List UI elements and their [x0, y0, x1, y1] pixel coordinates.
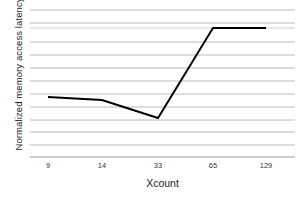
chart-figure: Normalized memory access latency 9 14 33…: [0, 0, 299, 197]
x-tick-label-0: 9: [35, 161, 61, 170]
data-series-latency: [48, 28, 266, 118]
x-tick-label-4: 129: [253, 161, 279, 170]
x-tick-label-3: 65: [200, 161, 226, 170]
x-tick-label-2: 33: [145, 161, 171, 170]
x-axis-title: Xcount: [30, 177, 295, 189]
x-tick-label-1: 14: [89, 161, 115, 170]
gridlines: [30, 10, 295, 145]
y-axis-title: Normalized memory access latency: [13, 1, 24, 151]
